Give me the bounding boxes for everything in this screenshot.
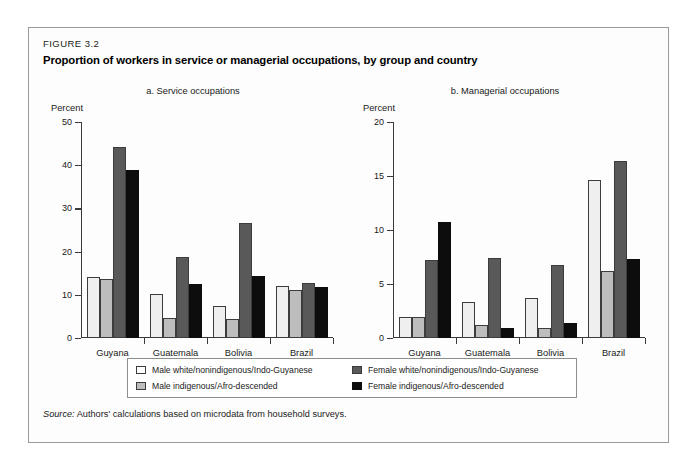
x-axis-category-label: Bolivia [225,348,252,358]
bar [213,306,226,338]
panel-a-y-axis-label: Percent [51,103,83,113]
legend-swatch-icon [136,366,146,374]
y-axis-tick-label: 10 [374,225,384,235]
y-axis-tick [387,122,393,123]
chart-legend: Male white/nonindigenous/Indo-GuyaneseFe… [127,358,577,398]
chart-panel-b: b. Managerial occupations Percent 051015… [349,86,661,348]
bar [564,323,577,338]
bar [150,294,163,338]
x-axis-category-label: Guatemala [465,348,510,358]
y-axis-tick-label: 15 [374,171,384,181]
legend-item-female-indigenous: Female indigenous/Afro-descended [352,378,568,394]
bar [525,298,538,338]
x-axis-category-label: Guatemala [153,348,198,358]
y-axis-tick [387,284,393,285]
bar [488,258,501,338]
y-axis-tick [75,165,81,166]
y-axis-tick [75,122,81,123]
x-axis-tick [456,338,457,344]
y-axis-tick [75,295,81,296]
y-axis-tick [75,338,81,339]
legend-item-label: Female white/nonindigenous/Indo-Guyanese [368,365,539,375]
bar [126,170,139,338]
figure-container: FIGURE 3.2 Proportion of workers in serv… [28,27,669,443]
panel-a-y-axis [81,122,82,338]
bar [412,317,425,338]
x-axis-category-label: Bolivia [537,348,564,358]
bar-cluster-brazil [276,283,328,338]
bar-cluster-guyana [399,222,451,338]
figure-number: FIGURE 3.2 [43,38,99,49]
y-axis-tick [75,208,81,209]
bar-cluster-guyana [87,147,139,338]
y-axis-tick-label: 0 [67,333,72,343]
bar [475,325,488,338]
bar [100,279,113,338]
legend-item-female-white: Female white/nonindigenous/Indo-Guyanese [352,362,568,378]
legend-item-male-indigenous: Male indigenous/Afro-descended [136,378,352,394]
y-axis-tick-label: 20 [62,247,72,257]
y-axis-tick-label: 50 [62,117,72,127]
bar [538,328,551,338]
panel-b-y-axis [393,122,394,338]
bar [87,277,100,338]
bar [438,222,451,338]
bar [614,161,627,338]
y-axis-tick-label: 0 [379,333,384,343]
bar [462,302,475,338]
legend-item-label: Female indigenous/Afro-descended [368,381,504,391]
panel-a-subtitle: a. Service occupations [37,86,349,96]
bar-cluster-guatemala [150,257,202,338]
legend-swatch-icon [352,382,362,390]
x-axis-tick [144,338,145,344]
source-note: Source: Authors' calculations based on m… [43,409,347,419]
y-axis-tick-label: 40 [62,160,72,170]
bar [302,283,315,338]
figure-title: Proportion of workers in service or mana… [43,54,478,66]
x-axis-tick [270,338,271,344]
bar [627,259,640,338]
bar [252,276,265,338]
bar [176,257,189,338]
bar [289,290,302,338]
x-axis-category-label: Guyana [96,348,129,358]
x-axis-tick [645,338,646,344]
y-axis-tick [387,176,393,177]
legend-item-male-white: Male white/nonindigenous/Indo-Guyanese [136,362,352,378]
bar [113,147,126,338]
source-label: Source: [43,409,75,419]
bar [239,223,252,338]
legend-swatch-icon [352,366,362,374]
chart-panel-a: a. Service occupations Percent 010203040… [37,86,349,348]
x-axis-tick [333,338,334,344]
panel-b-plot-area: 05101520GuyanaGuatemalaBoliviaBrazil [393,122,645,338]
legend-item-label: Male indigenous/Afro-descended [152,381,278,391]
bar [588,180,601,338]
y-axis-tick-label: 30 [62,203,72,213]
bar [163,318,176,338]
bar [399,317,412,338]
y-axis-tick [75,252,81,253]
source-text: Authors' calculations based on microdata… [77,409,347,419]
panel-b-y-axis-label: Percent [363,103,395,113]
bar-cluster-brazil [588,161,640,338]
bar [226,319,239,338]
y-axis-tick-label: 20 [374,117,384,127]
y-axis-tick [387,338,393,339]
bar-cluster-bolivia [525,265,577,338]
bar [315,287,328,338]
bar [601,271,614,338]
bar-cluster-guatemala [462,258,514,338]
bar [501,328,514,338]
legend-swatch-icon [136,382,146,390]
panel-a-plot-area: 01020304050GuyanaGuatemalaBoliviaBrazil [81,122,333,338]
x-axis-tick [519,338,520,344]
y-axis-tick-label: 5 [379,279,384,289]
x-axis-category-label: Brazil [602,348,625,358]
bar [189,284,202,338]
legend-item-label: Male white/nonindigenous/Indo-Guyanese [152,365,313,375]
x-axis-category-label: Guyana [408,348,441,358]
y-axis-tick [387,230,393,231]
panel-b-subtitle: b. Managerial occupations [349,86,661,96]
bar [551,265,564,338]
